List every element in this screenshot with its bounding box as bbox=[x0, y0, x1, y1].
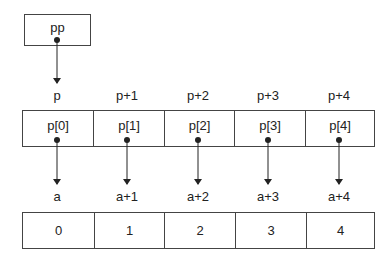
p2-to-a2-arrow bbox=[195, 137, 201, 184]
pp-to-p-arrow bbox=[54, 37, 60, 83]
p4-to-a4-arrow bbox=[336, 137, 342, 184]
p3-to-a3-arrow bbox=[265, 137, 271, 184]
pointer-arrows bbox=[0, 0, 389, 260]
p1-to-a1-arrow bbox=[124, 137, 130, 184]
p0-to-a-arrow bbox=[54, 137, 60, 184]
